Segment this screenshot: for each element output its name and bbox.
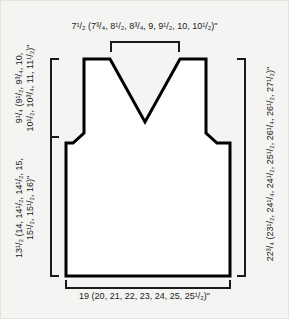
bracket-right-total-length [237,59,245,276]
bracket-top-neck-width [111,42,179,52]
bracket-bottom-hem-width [66,280,230,288]
garment-schematic-diagram: 7¹/₂ (7³/₄, 8¹/₂, 8³/₄, 9, 9¹/₂, 10, 10¹… [0,0,289,319]
measurement-label-total-length: 22³/₄ (23¹/₂, 24¹/₄, 24¹/₂, 25¹/₂, 26¹/₄… [265,58,276,270]
measurement-label-hem-width: 19 (20, 21, 22, 23, 24, 25, 25¹/₂)" [79,291,210,302]
bracket-left-body-length [51,137,59,276]
garment-outline-path [66,59,230,276]
measurement-label-body-length: 13¹/₂ (14, 14¹/₂, 14¹/₂, 15, 15¹/₂, 15¹/… [14,148,36,268]
measurement-label-neck-width: 7¹/₂ (7³/₄, 8¹/₂, 8³/₄, 9, 9¹/₂, 10, 10¹… [71,21,217,32]
measurement-label-armhole-depth: 9¹/₄ (9¹/₂, 9³/₄, 10, 10¹/₂, 10³/₄, 11, … [14,40,36,136]
schematic-drawing [0,0,289,319]
bracket-left-armhole-depth [51,59,59,137]
